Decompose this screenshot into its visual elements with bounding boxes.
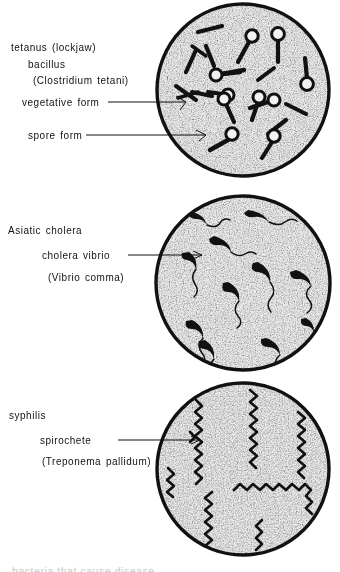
label-syphilis-species: (Treponema pallidum) — [42, 455, 151, 467]
microscope-field-syphilis — [155, 382, 333, 558]
callout-spore-form: spore form — [28, 129, 82, 141]
label-cholera-species: (Vibrio comma) — [48, 271, 124, 283]
label-tetanus-species: (Clostridium tetani) — [33, 74, 129, 86]
callout-spirochete: spirochete — [40, 434, 91, 446]
label-cholera-disease: Asiatic cholera — [8, 224, 82, 236]
label-tetanus-organism: bacillus — [28, 58, 65, 70]
panel-syphilis — [118, 382, 333, 558]
microscope-field-cholera — [154, 194, 334, 374]
panel-cholera — [128, 194, 334, 386]
callout-cholera-vibrio: cholera vibrio — [42, 249, 110, 261]
label-syphilis-disease: syphilis — [9, 409, 46, 421]
panel-tetanus — [86, 0, 333, 180]
callout-vegetative-form: vegetative form — [22, 96, 99, 108]
label-tetanus-disease: tetanus (lockjaw) — [11, 41, 96, 53]
footer-cutoff-text: bacteria that cause disease — [12, 565, 155, 572]
